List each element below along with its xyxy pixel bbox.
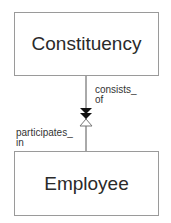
relationship-label-participates-in: participates_ in (16, 128, 73, 148)
label-line: participates_ (16, 128, 73, 138)
label-line: of (95, 95, 137, 105)
open-triangle-icon (80, 119, 92, 126)
entity-employee[interactable]: Employee (14, 151, 159, 216)
label-line: in (16, 138, 73, 148)
many-arrow-icon (80, 113, 92, 119)
entity-name: Constituency (32, 33, 142, 55)
entity-constituency[interactable]: Constituency (14, 12, 159, 76)
entity-name: Employee (44, 173, 129, 195)
relationship-label-consists-of: consists_ of (95, 85, 137, 105)
